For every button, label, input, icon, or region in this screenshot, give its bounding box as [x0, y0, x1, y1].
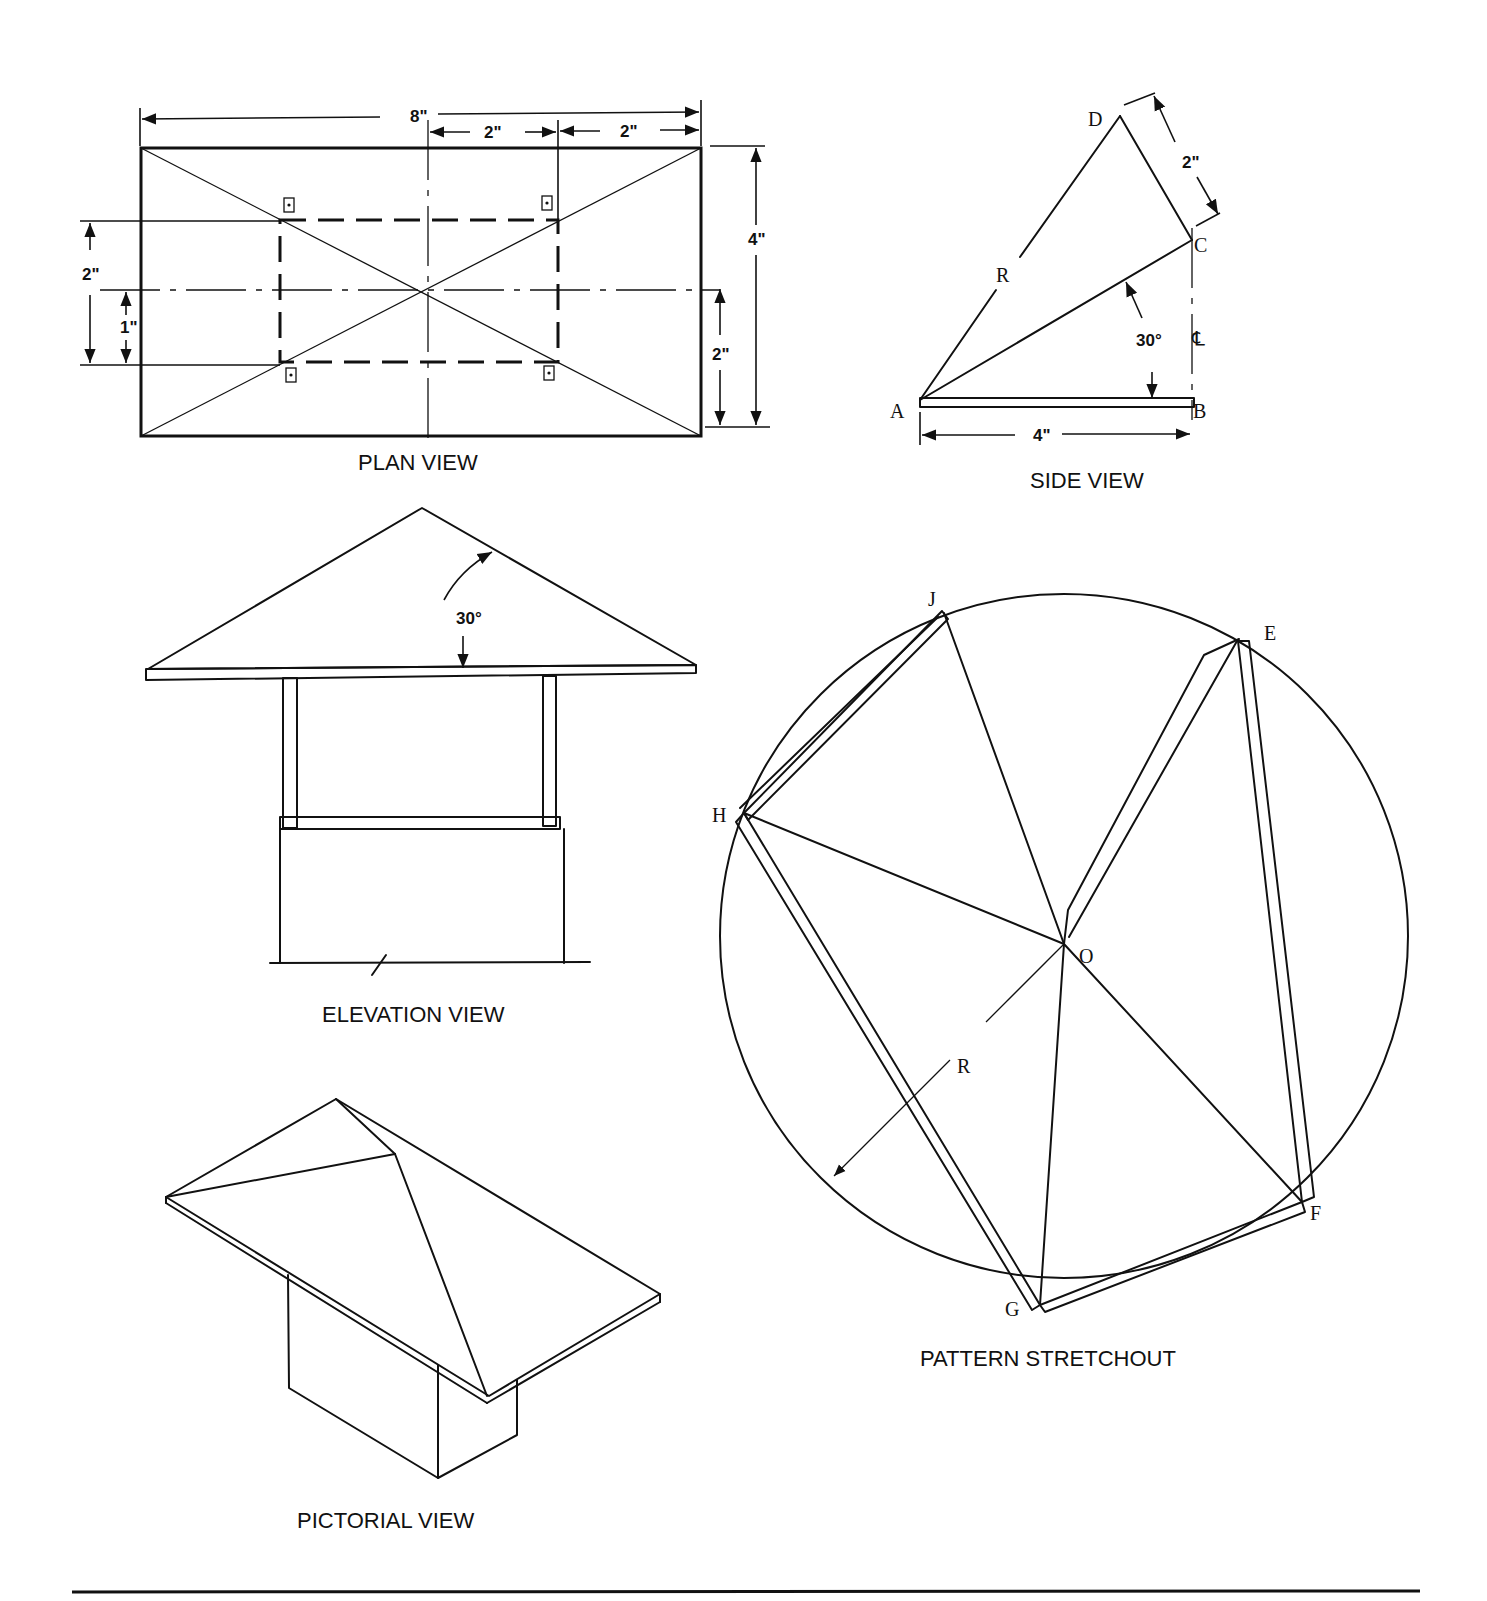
elevation-roof — [148, 508, 696, 669]
pattern-label-g: G — [1005, 1298, 1019, 1320]
pattern-chord-h-g — [736, 813, 1040, 1310]
elevation-break-symbol — [372, 955, 386, 975]
pictorial-hip-1 — [166, 1154, 395, 1197]
dim-label-1in: 1" — [120, 318, 138, 337]
dim-label-right-2in: 2" — [712, 345, 730, 364]
elevation-dim-angle: 30° — [456, 609, 482, 628]
pictorial-view: PICTORIAL VIEW — [166, 1099, 660, 1533]
side-dim-2in: 2" — [1182, 153, 1200, 172]
pattern-label-h: H — [712, 804, 726, 826]
page-bottom-rule — [72, 1591, 1420, 1592]
centerline-symbol: ℄ — [1191, 328, 1205, 350]
pattern-stretchout-caption: PATTERN STRETCHOUT — [920, 1346, 1176, 1371]
elevation-ground-line — [270, 962, 590, 963]
pattern-label-e: E — [1264, 622, 1276, 644]
pattern-label-r: R — [957, 1055, 971, 1077]
elevation-collar — [280, 817, 560, 829]
leg-marker — [544, 366, 554, 380]
side-base-flange — [920, 398, 1194, 407]
pattern-chord-g-f — [1040, 1202, 1305, 1312]
dim-label-inner-2in: 2" — [484, 123, 502, 142]
pictorial-view-caption: PICTORIAL VIEW — [297, 1508, 474, 1533]
pattern-chord-h-j — [744, 611, 948, 820]
pattern-label-j: J — [928, 588, 936, 610]
dim-label-outer-2in: 2" — [620, 122, 638, 141]
leg-marker — [286, 368, 296, 382]
elevation-leg-right — [543, 676, 556, 826]
elevation-view: 30° ELEVATION VIEW — [146, 508, 696, 1027]
side-dim-4in: 4" — [1033, 426, 1051, 445]
point-label-b: B — [1193, 400, 1206, 422]
technical-drawing-sheet: 8" 2" 2" 4" 2" 2" 1" PLAN VIEW — [0, 0, 1487, 1601]
pattern-stretchout: J E H O R F G PATTERN STRETCHOUT — [712, 588, 1408, 1371]
pictorial-hip-2 — [336, 1099, 395, 1154]
dim-line-8in — [142, 117, 380, 119]
point-label-a: A — [890, 400, 905, 422]
leg-marker — [284, 198, 294, 212]
pictorial-hip-3 — [395, 1154, 487, 1396]
dim-label-4in: 4" — [748, 230, 766, 249]
side-dim-angle: 30° — [1136, 331, 1162, 350]
side-line-a-d-lower — [920, 290, 996, 400]
plan-view: 8" 2" 2" 4" 2" 2" 1" PLAN VIEW — [80, 100, 770, 475]
pictorial-base-box — [288, 1275, 517, 1478]
pattern-chord-e-f — [1238, 641, 1314, 1202]
pictorial-roof-outline — [166, 1099, 660, 1396]
point-label-r: R — [996, 264, 1010, 286]
dim-label-8in: 8" — [410, 107, 428, 126]
dim-label-left-2in: 2" — [82, 265, 100, 284]
plan-view-caption: PLAN VIEW — [358, 450, 478, 475]
side-view: 4" 2" 30° A B C D R ℄ SIDE VIEW — [890, 93, 1220, 493]
leg-marker — [542, 196, 552, 210]
point-label-d: D — [1088, 108, 1102, 130]
elevation-view-caption: ELEVATION VIEW — [322, 1002, 505, 1027]
side-line-d-c — [1120, 116, 1192, 240]
point-label-c: C — [1194, 234, 1207, 256]
side-view-caption: SIDE VIEW — [1030, 468, 1144, 493]
pattern-label-o: O — [1079, 945, 1093, 967]
elevation-roof-flange — [146, 665, 696, 680]
elevation-leg-left — [283, 678, 297, 828]
side-line-a-d-upper — [1020, 116, 1120, 257]
pattern-label-f: F — [1310, 1202, 1321, 1224]
